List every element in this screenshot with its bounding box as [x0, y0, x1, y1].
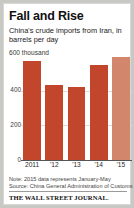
bar [23, 61, 41, 160]
chart-subtitle: China's crude imports from Iran, in barr… [9, 27, 125, 45]
plot-area: 4002000 [4, 56, 132, 161]
y-axis-tick-label: 400 [7, 87, 21, 93]
bar [45, 85, 63, 160]
footer-divider [9, 191, 127, 192]
x-axis-tick-label: '12 [43, 161, 65, 169]
bar [90, 65, 108, 160]
chart-title: Fall and Rise [9, 10, 84, 23]
wsj-brand-logo: THE WALL STREET JOURNAL. [9, 194, 109, 201]
y-axis-unit-label: 600 thousand [9, 49, 49, 56]
x-axis-tick-label: 2011 [21, 161, 43, 169]
x-axis-tick-label: '14 [88, 161, 110, 169]
y-axis-tick-label: 200 [7, 122, 21, 128]
x-axis-tick-label: '15 [110, 161, 132, 169]
x-axis-tick-label: '13 [65, 161, 87, 169]
chart-source: Source: China General Administration of … [9, 183, 131, 189]
bar [112, 57, 130, 160]
y-axis-tick-label: 0 [7, 157, 21, 163]
chart-figure: Fall and Rise China's crude imports from… [3, 3, 131, 205]
chart-note: Note: 2015 data represents January-May [9, 176, 131, 182]
bar [68, 87, 86, 160]
bar-series [21, 56, 132, 161]
x-axis-tick-labels: 2011'12'13'14'15 [21, 161, 130, 171]
